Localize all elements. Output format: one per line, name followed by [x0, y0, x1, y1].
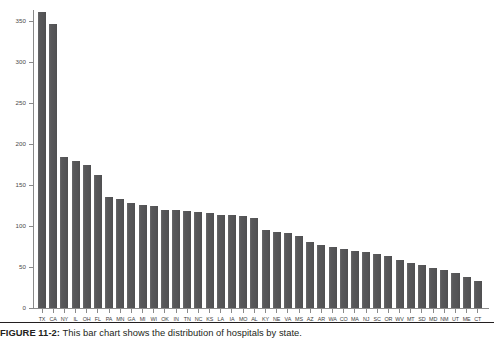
x-axis-tick-mark	[142, 309, 143, 313]
bar	[161, 210, 169, 308]
bar-group: IA	[228, 0, 236, 309]
bar	[429, 268, 437, 308]
y-axis-tick: 300	[0, 62, 33, 63]
bar-group: NE	[273, 0, 281, 309]
y-axis-tick: 350	[0, 21, 33, 22]
bar-group: PA	[105, 0, 113, 309]
bar-group: SC	[373, 0, 381, 309]
x-axis-tick-mark	[86, 309, 87, 313]
y-axis-tick-label: 300	[15, 57, 26, 66]
bar	[206, 213, 214, 308]
x-axis-tick-mark	[131, 309, 132, 313]
bar	[150, 206, 158, 308]
bar-group: MS	[295, 0, 303, 309]
bar-group: MA	[351, 0, 359, 309]
x-axis-tick-mark	[299, 309, 300, 313]
bar	[172, 210, 180, 308]
bar-series: TXCANYILOHFLPAMNGAMIWIOKINTNNCKSLAIAMOAL…	[33, 0, 489, 309]
x-axis-tick-mark	[120, 309, 121, 313]
bar-group: MT	[407, 0, 415, 309]
bar-group: NM	[440, 0, 448, 309]
y-axis-tick-label: 200	[15, 139, 26, 148]
bar	[94, 175, 102, 308]
x-axis-tick-mark	[220, 309, 221, 313]
x-axis-tick-mark	[377, 309, 378, 313]
bar	[194, 212, 202, 308]
bar-group: KS	[206, 0, 214, 309]
y-axis-tick-label: 150	[15, 180, 26, 189]
x-axis-tick-mark	[187, 309, 188, 313]
bar	[407, 263, 415, 308]
bar-group: AZ	[306, 0, 314, 309]
bar	[295, 236, 303, 308]
bar-group: ME	[463, 0, 471, 309]
bar-group: TN	[183, 0, 191, 309]
bar-group: FL	[94, 0, 102, 309]
bar	[463, 277, 471, 308]
bar-group: VA	[284, 0, 292, 309]
x-axis-tick-mark	[477, 309, 478, 313]
x-axis-tick-mark	[332, 309, 333, 313]
bar-chart-plot-area: 050100150200250300350 TXCANYILOHFLPAMNGA…	[0, 0, 494, 318]
x-axis-tick-mark	[444, 309, 445, 313]
bar	[284, 233, 292, 308]
bar	[373, 254, 381, 308]
x-axis-tick-mark	[354, 309, 355, 313]
bar	[72, 161, 80, 308]
x-axis-tick-mark	[198, 309, 199, 313]
bar	[105, 197, 113, 308]
bar	[306, 242, 314, 308]
bar-group: AL	[250, 0, 258, 309]
y-axis-tick-label: 100	[15, 221, 26, 230]
y-axis-tick: 100	[0, 226, 33, 227]
x-axis-tick-mark	[366, 309, 367, 313]
bar	[127, 203, 135, 308]
figure-caption-text: This bar chart shows the distribution of…	[63, 327, 302, 338]
bar	[362, 252, 370, 308]
bar-group: NC	[194, 0, 202, 309]
x-axis-tick-mark	[310, 309, 311, 313]
bar-group: OK	[161, 0, 169, 309]
x-axis-tick-mark	[287, 309, 288, 313]
x-axis-tick-mark	[97, 309, 98, 313]
x-axis-tick-mark	[455, 309, 456, 313]
bar	[329, 247, 337, 308]
x-axis-tick-mark	[466, 309, 467, 313]
figure-caption: FIGURE 11-2: This bar chart shows the di…	[0, 326, 494, 340]
y-axis-tick-label: 250	[15, 98, 26, 107]
bar	[38, 12, 46, 308]
bar	[317, 245, 325, 308]
bar-group: WI	[150, 0, 158, 309]
x-axis-tick-mark	[42, 309, 43, 313]
y-axis-tick-label: 350	[15, 16, 26, 25]
bar-group: MO	[239, 0, 247, 309]
bar-group: MI	[139, 0, 147, 309]
bar-group: IL	[72, 0, 80, 309]
bar	[384, 256, 392, 308]
x-axis-tick-mark	[410, 309, 411, 313]
figure-11-2: 050100150200250300350 TXCANYILOHFLPAMNGA…	[0, 0, 494, 343]
x-axis-tick-mark	[75, 309, 76, 313]
bar	[250, 218, 258, 308]
bar-group: SD	[418, 0, 426, 309]
x-axis-tick-mark	[64, 309, 65, 313]
bar	[273, 232, 281, 308]
bar	[228, 215, 236, 308]
x-axis-tick-mark	[109, 309, 110, 313]
bar	[262, 230, 270, 308]
bar-group: WV	[396, 0, 404, 309]
x-axis-tick-mark	[254, 309, 255, 313]
x-axis-tick-mark	[231, 309, 232, 313]
bar	[239, 216, 247, 308]
bar	[451, 273, 459, 308]
bar	[418, 265, 426, 308]
bar	[139, 205, 147, 308]
bar-group: CT	[474, 0, 482, 309]
bar	[474, 281, 482, 308]
y-axis-tick-label: 0	[22, 303, 26, 312]
figure-caption-label: FIGURE 11-2:	[0, 327, 60, 338]
bar	[440, 270, 448, 308]
bar	[396, 260, 404, 308]
bar	[183, 211, 191, 308]
bar-group: NY	[60, 0, 68, 309]
